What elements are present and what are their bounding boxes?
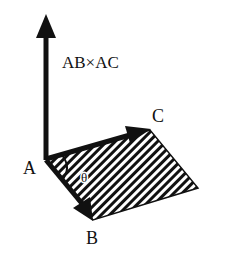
- label-vertex-c: C: [152, 106, 164, 126]
- cross-product-vector: [36, 14, 56, 160]
- label-angle-theta: θ: [81, 170, 87, 185]
- parallelogram-area: [46, 130, 198, 220]
- diagram-svg: AB×AC C A B θ: [0, 0, 226, 262]
- arrowhead-up-icon: [36, 14, 56, 38]
- label-cross-product: AB×AC: [62, 53, 119, 72]
- label-vertex-a: A: [23, 158, 36, 178]
- cross-product-diagram: AB×AC C A B θ: [0, 0, 226, 262]
- label-vertex-b: B: [86, 228, 98, 248]
